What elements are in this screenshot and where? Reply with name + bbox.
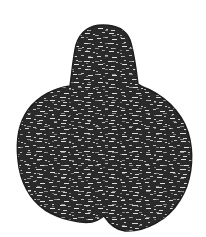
silhouette-figure bbox=[0, 0, 206, 237]
gourd-shape-icon bbox=[0, 0, 206, 237]
